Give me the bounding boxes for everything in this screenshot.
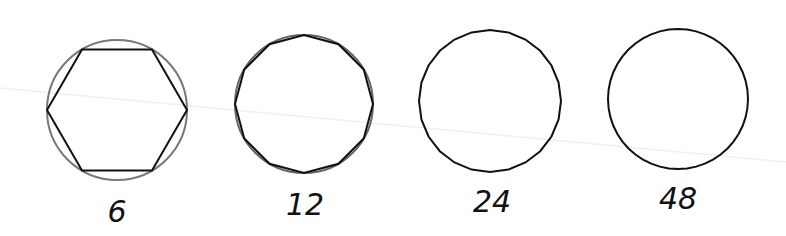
faint-scan-line	[0, 88, 786, 162]
reference-circle	[235, 35, 373, 173]
polygon-48-sides	[608, 29, 748, 169]
reference-circle	[47, 40, 187, 180]
polygon-24-sides	[419, 30, 561, 172]
polygon-6-sides	[47, 49, 187, 170]
figure-label: 6	[107, 194, 126, 229]
figure-label: 12	[286, 187, 324, 222]
polygon-diagram: 6 12 24 48	[0, 0, 786, 236]
figure-12: 12	[235, 35, 373, 222]
figure-label: 48	[659, 181, 697, 216]
figure-label: 24	[473, 184, 511, 219]
figure-6: 6	[47, 40, 187, 229]
figure-48: 48	[608, 29, 748, 216]
figure-24: 24	[419, 30, 561, 219]
